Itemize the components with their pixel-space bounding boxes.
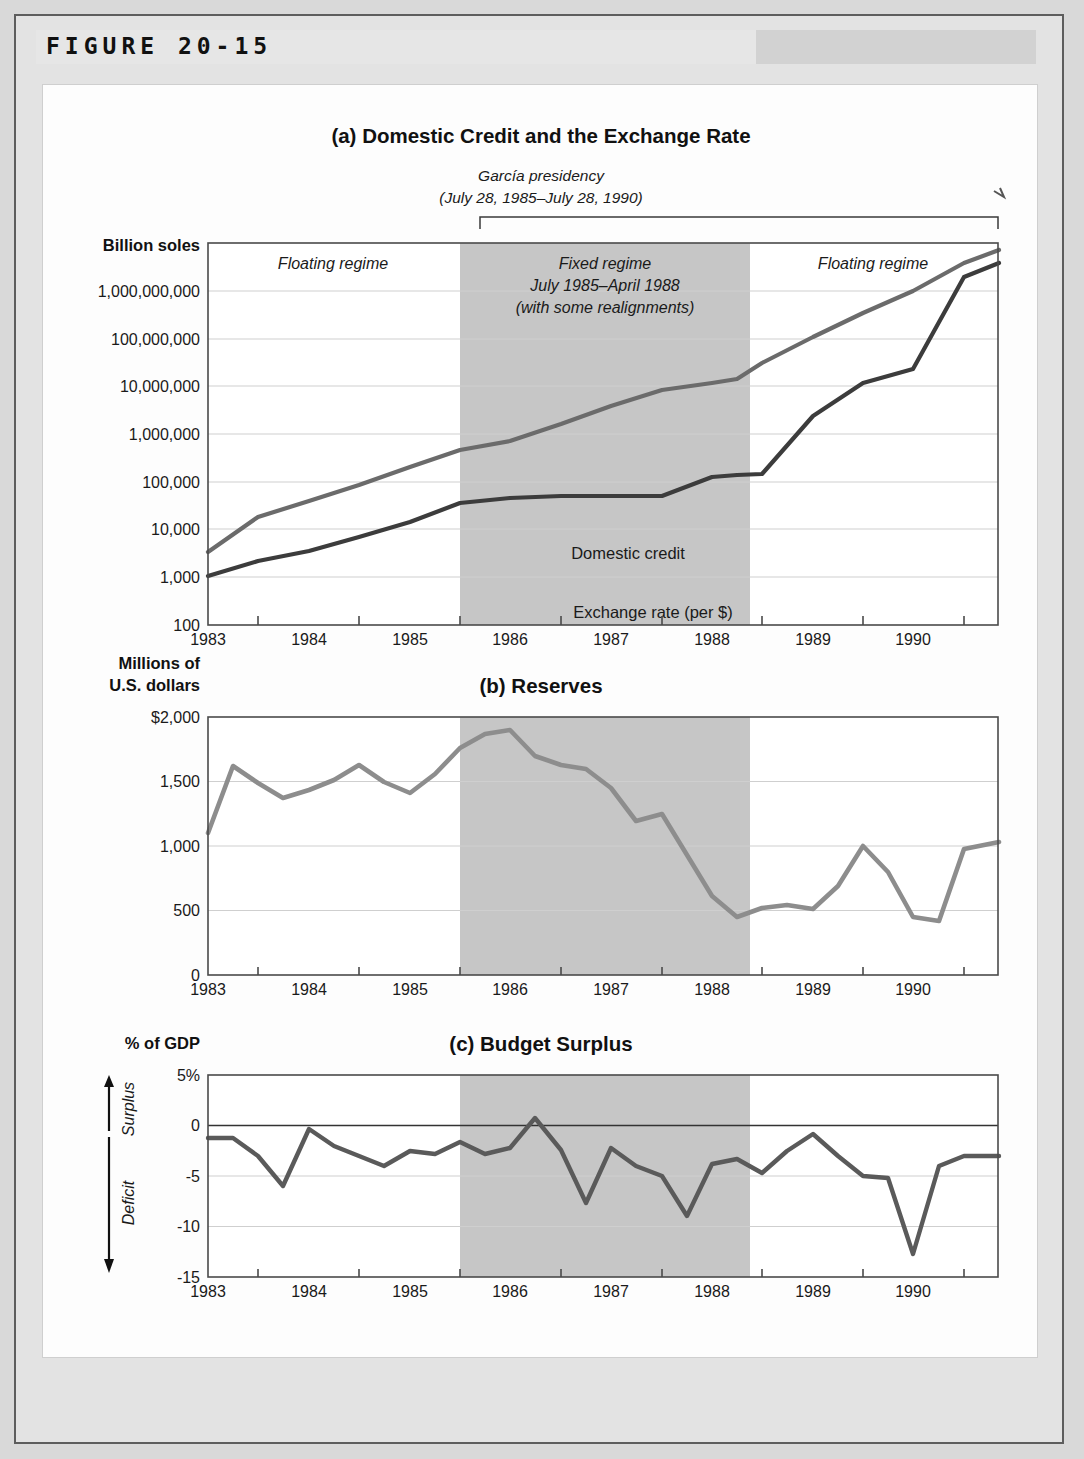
- panel-a-y-tick-labels: 1,000,000,000 100,000,000 10,000,000 1,0…: [98, 283, 200, 634]
- panel-c-ytick-3: -10: [177, 1218, 200, 1235]
- decorative-corner-mark: [994, 188, 1004, 197]
- regime-label-mid-line2: July 1985–April 1988: [529, 277, 680, 294]
- panel-b-ytick-0: $2,000: [151, 709, 200, 726]
- panel-b-xtick-1: 1984: [291, 981, 327, 998]
- panel-a-ytick-3: 1,000,000: [129, 426, 200, 443]
- panel-a-xtick-7: 1990: [895, 631, 931, 645]
- panel-b-xtick-5: 1988: [694, 981, 730, 998]
- panel-b-xtick-0: 1983: [190, 981, 226, 998]
- panel-b-x-tick-labels: 1983 1984 1985 1986 1987 1988 1989 1990: [190, 981, 931, 998]
- panel-a-ytick-2: 10,000,000: [120, 378, 200, 395]
- panel-c-xtick-7: 1990: [895, 1283, 931, 1300]
- panel-a-xtick-4: 1987: [593, 631, 629, 645]
- panel-c-xtick-1: 1984: [291, 1283, 327, 1300]
- figure-frame: FIGURE 20-15 (a) Domestic Credit and the…: [14, 14, 1064, 1444]
- panel-c-budget-surplus: % of GDP (c) Budget Surplus 5% 0 -5 -10 …: [43, 1025, 1039, 1325]
- regime-label-right: Floating regime: [818, 255, 928, 272]
- panel-b-ytick-3: 500: [173, 902, 200, 919]
- panel-a-ytick-1: 100,000,000: [111, 331, 200, 348]
- panel-b-y-axis-title-line1: Millions of: [118, 654, 200, 672]
- panel-a-ytick-0: 1,000,000,000: [98, 283, 200, 300]
- panel-a-xtick-0: 1983: [190, 631, 226, 645]
- panel-b-ytick-2: 1,000: [160, 838, 200, 855]
- surplus-arrow-icon: [104, 1075, 114, 1131]
- panel-b-ytick-1: 1,500: [160, 773, 200, 790]
- panel-c-y-axis-title: % of GDP: [125, 1034, 200, 1052]
- panel-a-title: (a) Domestic Credit and the Exchange Rat…: [331, 124, 750, 147]
- panel-a-xtick-1: 1984: [291, 631, 327, 645]
- deficit-arrow-icon: [104, 1137, 114, 1273]
- regime-label-left: Floating regime: [278, 255, 388, 272]
- panel-a-domestic-credit-exchange-rate: (a) Domestic Credit and the Exchange Rat…: [43, 85, 1039, 645]
- panel-b-xtick-2: 1985: [392, 981, 428, 998]
- deficit-label: Deficit: [120, 1180, 137, 1225]
- panel-a-label-domestic-credit: Domestic credit: [571, 544, 685, 562]
- panel-b-xtick-6: 1989: [795, 981, 831, 998]
- panel-c-xtick-6: 1989: [795, 1283, 831, 1300]
- panel-a-ytick-6: 1,000: [160, 569, 200, 586]
- panel-a-xtick-2: 1985: [392, 631, 428, 645]
- panel-b-y-axis-title-line2: U.S. dollars: [109, 676, 200, 694]
- panel-a-y-axis-title: Billion soles: [103, 236, 200, 254]
- panel-c-xtick-4: 1987: [593, 1283, 629, 1300]
- panel-a-x-tick-labels: 1983 1984 1985 1986 1987 1988 1989 1990: [190, 631, 931, 645]
- panel-a-label-exchange-rate: Exchange rate (per $): [573, 603, 733, 621]
- panel-b-title: (b) Reserves: [479, 674, 602, 697]
- surplus-label: Surplus: [120, 1082, 137, 1136]
- regime-label-mid-line1: Fixed regime: [559, 255, 652, 272]
- garcia-presidency-bracket: [480, 217, 998, 229]
- panel-a-xtick-3: 1986: [492, 631, 528, 645]
- panel-a-xtick-6: 1989: [795, 631, 831, 645]
- panel-b-xtick-7: 1990: [895, 981, 931, 998]
- panel-c-xtick-0: 1983: [190, 1283, 226, 1300]
- panel-c-xtick-3: 1986: [492, 1283, 528, 1300]
- panel-c-xtick-2: 1985: [392, 1283, 428, 1300]
- figure-body: (a) Domestic Credit and the Exchange Rat…: [42, 84, 1038, 1358]
- panel-a-xtick-5: 1988: [694, 631, 730, 645]
- panel-b-y-tick-labels: $2,000 1,500 1,000 500 0: [151, 709, 200, 984]
- panel-c-ytick-0: 5%: [177, 1067, 200, 1084]
- garcia-presidency-line2: (July 28, 1985–July 28, 1990): [439, 189, 642, 206]
- panel-a-ytick-5: 10,000: [151, 521, 200, 538]
- panel-c-xtick-5: 1988: [694, 1283, 730, 1300]
- regime-label-mid-line3: (with some realignments): [516, 299, 695, 316]
- panel-c-title: (c) Budget Surplus: [449, 1032, 632, 1055]
- figure-label: FIGURE 20-15: [46, 33, 272, 59]
- panel-c-y-tick-labels: 5% 0 -5 -10 -15: [177, 1067, 200, 1286]
- panel-c-ytick-1: 0: [191, 1117, 200, 1134]
- garcia-presidency-line1: García presidency: [478, 167, 605, 184]
- panel-b-reserves: Millions of U.S. dollars (b) Reserves $2…: [43, 645, 1039, 1025]
- panel-b-xtick-4: 1987: [593, 981, 629, 998]
- panel-c-ytick-2: -5: [186, 1168, 200, 1185]
- panel-a-ytick-4: 100,000: [142, 474, 200, 491]
- panel-c-x-tick-labels: 1983 1984 1985 1986 1987 1988 1989 1990: [190, 1283, 931, 1300]
- figure-header: FIGURE 20-15: [36, 30, 1036, 64]
- panel-b-xtick-3: 1986: [492, 981, 528, 998]
